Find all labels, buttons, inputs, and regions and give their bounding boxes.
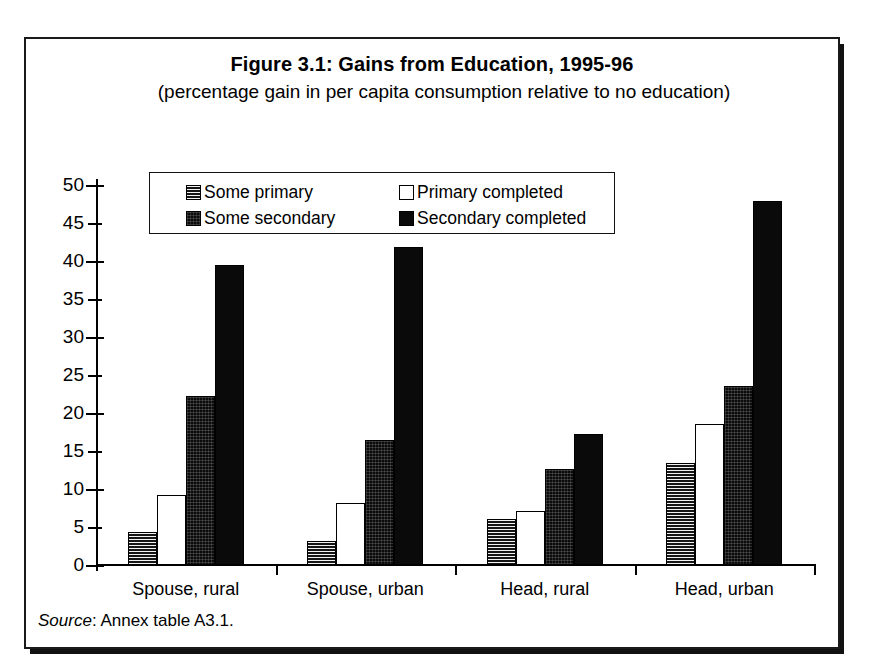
- y-axis-tick-mark: [86, 565, 104, 567]
- legend-label-primary-completed: Primary completed: [417, 182, 563, 203]
- x-axis-category-label: Head, urban: [635, 579, 815, 600]
- source-label: Source: [38, 611, 92, 630]
- bar[interactable]: [394, 247, 423, 565]
- legend-row: Some secondary Secondary completed: [150, 205, 614, 231]
- y-axis-tick-label: 0: [28, 554, 84, 576]
- bar[interactable]: [695, 424, 724, 565]
- bar[interactable]: [724, 386, 753, 565]
- source-note: Source: Annex table A3.1.: [38, 611, 234, 631]
- legend-item-secondary-completed: Secondary completed: [381, 208, 614, 229]
- figure-inner: Figure 3.1: Gains from Education, 1995-9…: [26, 39, 838, 647]
- bars-layer: [96, 185, 814, 565]
- y-axis-tick-label: 40: [28, 250, 84, 272]
- bar-group: [487, 185, 603, 565]
- bar[interactable]: [186, 396, 215, 565]
- legend-item-primary-completed: Primary completed: [381, 182, 614, 203]
- source-value: : Annex table A3.1.: [92, 611, 234, 630]
- bar-group: [128, 185, 244, 565]
- legend: Some primary Primary completed Some seco…: [149, 172, 615, 234]
- x-axis-separator: [814, 564, 816, 575]
- bar[interactable]: [516, 511, 545, 565]
- bar-group: [307, 185, 423, 565]
- y-axis-tick-label: 20: [28, 402, 84, 424]
- y-axis-tick-label: 50: [28, 174, 84, 196]
- bar[interactable]: [365, 440, 394, 565]
- y-axis-tick-label: 25: [28, 364, 84, 386]
- bar[interactable]: [215, 265, 244, 565]
- figure-frame: Figure 3.1: Gains from Education, 1995-9…: [24, 37, 840, 649]
- y-axis-tick-label: 15: [28, 440, 84, 462]
- x-axis-category-label: Spouse, urban: [276, 579, 456, 600]
- legend-label-some-secondary: Some secondary: [204, 208, 335, 229]
- y-axis-tick-label: 30: [28, 326, 84, 348]
- bar[interactable]: [307, 541, 336, 565]
- scan-bleed-text: [0, 0, 880, 22]
- bar-group: [666, 185, 782, 565]
- y-axis-tick-label: 35: [28, 288, 84, 310]
- y-axis-tick-label: 10: [28, 478, 84, 500]
- bar[interactable]: [666, 463, 695, 565]
- x-axis-separator: [635, 564, 637, 575]
- bar[interactable]: [487, 519, 516, 565]
- y-axis-tick-label: 5: [28, 516, 84, 538]
- chart-subtitle: (percentage gain in per capita consumpti…: [90, 79, 798, 105]
- legend-swatch-primary-completed-icon: [399, 185, 414, 200]
- x-axis-separator: [276, 564, 278, 575]
- legend-row: Some primary Primary completed: [150, 179, 614, 205]
- legend-swatch-secondary-completed-icon: [399, 211, 414, 226]
- legend-swatch-some-primary-icon: [186, 185, 201, 200]
- legend-label-secondary-completed: Secondary completed: [417, 208, 586, 229]
- bar[interactable]: [157, 495, 186, 565]
- page-title: Figure 3.1: Gains from Education, 1995-9…: [26, 53, 838, 76]
- legend-label-some-primary: Some primary: [204, 182, 313, 203]
- x-axis-category-label: Head, rural: [455, 579, 635, 600]
- x-axis-separator: [455, 564, 457, 575]
- bar[interactable]: [336, 503, 365, 565]
- bar[interactable]: [574, 434, 603, 565]
- bar[interactable]: [753, 201, 782, 565]
- plot-area: [96, 185, 814, 565]
- legend-item-some-secondary: Some secondary: [150, 208, 381, 229]
- bar[interactable]: [545, 469, 574, 565]
- x-axis-category-label: Spouse, rural: [96, 579, 276, 600]
- legend-item-some-primary: Some primary: [150, 182, 381, 203]
- legend-swatch-some-secondary-icon: [186, 211, 201, 226]
- y-axis-tick-label: 45: [28, 212, 84, 234]
- bar[interactable]: [128, 532, 157, 565]
